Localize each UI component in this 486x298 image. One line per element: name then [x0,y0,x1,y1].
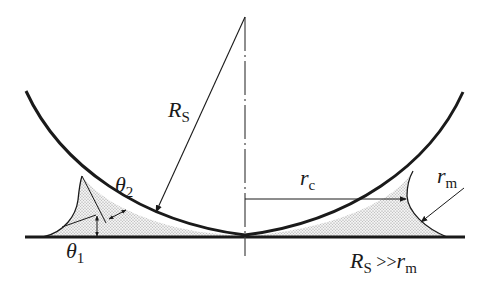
label-theta2: θ2 [115,172,133,200]
label-condition: RS >>rm [349,248,417,276]
label-meniscus-radius: rm [437,163,458,191]
meniscus-radius-arrow [421,188,464,222]
label-neck-radius: rc [300,165,316,193]
meniscus-diagram: RS θ2 θ1 rc rm RS >>rm [0,0,486,298]
label-sphere-radius: RS [167,97,190,125]
label-theta1: θ1 [66,238,84,266]
